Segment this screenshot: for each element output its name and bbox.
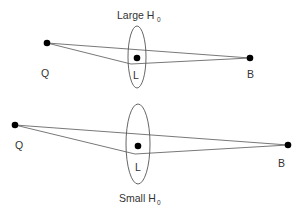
- observer-label: B: [247, 68, 254, 80]
- source-label: Q: [15, 139, 23, 151]
- source-label: Q: [41, 67, 49, 79]
- source-point: [44, 40, 51, 47]
- panel-large-h0: Large H 0 Q L B: [41, 9, 254, 88]
- observer-label: B: [278, 157, 285, 169]
- panel-title-subscript: 0: [157, 16, 161, 23]
- lens-label: L: [133, 69, 139, 81]
- lens-point: [134, 55, 141, 62]
- observer-point: [285, 142, 292, 149]
- panel-title: Large H: [117, 9, 154, 21]
- panel-title-subscript: 0: [157, 199, 161, 206]
- observer-point: [247, 55, 254, 62]
- lens-point: [135, 143, 142, 150]
- light-ray-deflected: [47, 43, 250, 64]
- light-ray-deflected: [15, 125, 288, 154]
- lensing-diagram: Large H 0 Q L B Q L B Small H 0: [0, 0, 297, 208]
- lens-label: L: [135, 161, 141, 173]
- source-point: [12, 122, 19, 129]
- panel-small-h0: Q L B Small H 0: [12, 104, 292, 206]
- panel-title: Small H: [119, 192, 156, 204]
